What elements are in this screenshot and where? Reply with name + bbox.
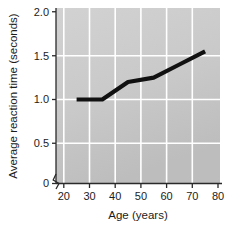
figure-container: 2.0 1.5 1.0 0.5 0 20 30 40 50 60 70 80 A… [0,0,245,235]
xtick-label-60: 60 [160,190,172,202]
ytick-label-0.5: 0.5 [34,137,49,149]
xtick-label-50: 50 [135,190,147,202]
xtick-label-70: 70 [186,190,198,202]
ytick-label-1.0: 1.0 [34,93,49,105]
x-axis-title: Age (years) [108,209,168,221]
reaction-time-line-chart: 2.0 1.5 1.0 0.5 0 20 30 40 50 60 70 80 A… [0,0,245,235]
xtick-label-40: 40 [109,190,121,202]
ytick-label-1.5: 1.5 [34,50,49,62]
x-axis-tick-labels: 20 30 40 50 60 70 80 [58,190,224,202]
xtick-label-30: 30 [83,190,95,202]
plot-area-background [56,8,220,183]
ytick-label-0: 0 [43,177,49,189]
y-axis-tick-labels: 2.0 1.5 1.0 0.5 0 [34,6,49,190]
x-axis-ticks [64,184,218,189]
xtick-label-20: 20 [58,190,70,202]
y-axis-title: Average reaction time (seconds) [7,13,19,179]
xtick-label-80: 80 [212,190,224,202]
ytick-label-2.0: 2.0 [34,6,49,18]
